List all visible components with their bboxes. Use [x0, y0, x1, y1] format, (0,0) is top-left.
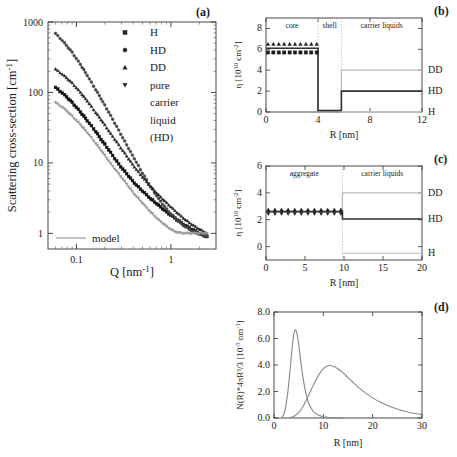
- data-marker: [71, 51, 74, 54]
- y-tick-label: 2.0: [258, 386, 271, 397]
- data-marker: [109, 114, 112, 117]
- series-label-H: H: [428, 106, 435, 117]
- data-marker: [77, 108, 80, 111]
- data-marker: [127, 147, 130, 150]
- x-tick-label: 30: [417, 420, 427, 431]
- data-marker: [84, 71, 87, 74]
- legend-label-dd: DD: [150, 61, 166, 73]
- data-marker: [73, 54, 76, 57]
- panel-c-ylabel: η [1010 cm-2]: [232, 189, 243, 236]
- legend-label-pure: pure: [150, 79, 170, 91]
- data-marker: [205, 235, 208, 238]
- region-label-2: carrier liquids: [361, 21, 403, 30]
- y-tick-label: 8.0: [258, 306, 271, 317]
- y-tick-label: 2: [257, 214, 262, 225]
- data-marker: [107, 111, 110, 114]
- data-marker: [103, 103, 106, 106]
- series-label-DD: DD: [428, 187, 442, 198]
- data-marker: [96, 132, 99, 135]
- panel-a-svg: 11010010000.11HHDDDpurecarrierliquid(HD)…: [0, 0, 228, 285]
- y-tick-label: 0: [257, 106, 262, 117]
- data-marker: [272, 51, 275, 54]
- series-label-H: H: [428, 247, 435, 258]
- x-tick-label: 0: [272, 420, 277, 431]
- panel-a-label: (a): [196, 5, 210, 20]
- panel-d-svg: 0.02.04.06.08.00102030R [nm]N(R)*4πR³/3 …: [226, 296, 457, 457]
- data-marker: [288, 51, 291, 54]
- data-marker: [119, 133, 122, 136]
- y-tick-label: 8: [257, 22, 262, 33]
- panel-b: 0246804812coreshellcarrier liquidsDDHDHR…: [226, 0, 457, 148]
- data-marker: [131, 179, 134, 182]
- y-tick-label: 0.0: [258, 412, 271, 423]
- data-marker: [88, 78, 91, 81]
- data-marker: [98, 135, 101, 138]
- y-tick-label: 2: [257, 85, 262, 96]
- panel-b-ylabel: η [1010 cm-2]: [232, 41, 243, 88]
- data-marker: [299, 51, 302, 54]
- panel-b-xlabel: R [nm]: [330, 129, 359, 140]
- data-marker: [123, 48, 127, 52]
- panel-c-xlabel: R [nm]: [330, 277, 359, 288]
- panel-c-svg: 024605101520aggregatecarrier liquidsDDHD…: [226, 148, 457, 296]
- series-label-HD: HD: [428, 213, 442, 224]
- series-label-HD: HD: [428, 85, 442, 96]
- data-marker: [133, 158, 136, 161]
- data-marker: [315, 51, 318, 54]
- data-marker: [94, 89, 97, 92]
- data-marker: [310, 51, 313, 54]
- y-tick-label: 6: [257, 160, 262, 171]
- region-label-0: aggregate: [290, 169, 320, 178]
- data-marker: [117, 129, 120, 132]
- panel-d: 0.02.04.06.08.00102030R [nm]N(R)*4πR³/3 …: [226, 296, 457, 457]
- data-marker: [96, 91, 99, 94]
- x-tick-label: 4: [316, 114, 321, 125]
- data-marker: [165, 208, 168, 211]
- panel-b-label: (b): [434, 4, 449, 19]
- series-label-DD: DD: [428, 64, 442, 75]
- x-tick-label: 0.1: [70, 254, 83, 265]
- data-marker: [115, 125, 118, 128]
- panel-a: 11010010000.11HHDDDpurecarrierliquid(HD)…: [0, 0, 228, 285]
- data-marker: [111, 154, 114, 157]
- x-tick-label: 1: [168, 254, 173, 265]
- data-marker: [141, 172, 144, 175]
- data-marker: [173, 217, 176, 220]
- data-marker: [56, 34, 59, 37]
- data-marker: [143, 175, 146, 178]
- x-tick-label: 12: [417, 114, 427, 125]
- region-label-1: carrier liquids: [361, 169, 403, 178]
- data-marker: [135, 161, 138, 164]
- data-marker: [59, 37, 62, 40]
- data-marker: [304, 51, 307, 54]
- data-marker: [92, 128, 95, 131]
- data-marker: [63, 42, 66, 45]
- data-marker: [90, 124, 93, 127]
- data-marker: [125, 143, 128, 146]
- panel-d-label: (d): [434, 300, 449, 315]
- data-marker: [90, 81, 93, 84]
- panel-c-label: (c): [434, 152, 447, 167]
- x-tick-label: 10: [339, 262, 349, 273]
- data-marker: [123, 140, 126, 143]
- data-marker: [123, 31, 127, 35]
- panel-d-xlabel: R [nm]: [334, 437, 363, 448]
- y-tick-label: 1: [38, 228, 43, 239]
- data-marker: [121, 136, 124, 139]
- region-label-0: core: [286, 21, 300, 30]
- y-tick-label: 6: [257, 43, 262, 54]
- legend-label-h: H: [150, 26, 158, 38]
- x-tick-label: 5: [303, 262, 308, 273]
- x-tick-label: 8: [368, 114, 373, 125]
- x-tick-label: 15: [378, 262, 388, 273]
- y-tick-label: 100: [28, 87, 43, 98]
- data-marker: [137, 185, 140, 188]
- pd-plot-frame: [274, 312, 422, 418]
- legend-label-hd: HD: [150, 44, 166, 56]
- data-marker: [293, 51, 296, 54]
- data-marker: [129, 150, 132, 153]
- data-marker: [123, 170, 126, 173]
- y-tick-label: 10: [33, 157, 43, 168]
- pb-plot-frame: [266, 18, 422, 112]
- data-marker: [167, 210, 170, 213]
